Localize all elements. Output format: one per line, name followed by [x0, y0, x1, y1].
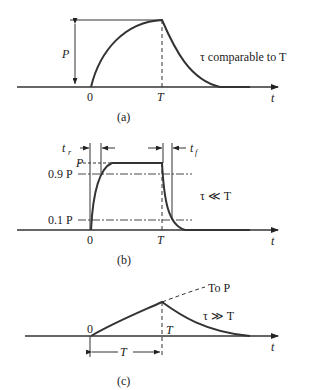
svg-text:(c): (c)	[117, 374, 130, 388]
svg-text:t: t	[190, 141, 194, 155]
svg-text:t: t	[271, 340, 275, 354]
svg-text:0.1 P: 0.1 P	[48, 213, 73, 227]
svg-text:T: T	[166, 323, 174, 337]
panel-a: P 0 T t τ comparable to T (a)	[17, 20, 287, 124]
svg-text:To P: To P	[208, 281, 230, 295]
svg-text:f: f	[195, 148, 199, 157]
svg-text:t: t	[62, 141, 66, 155]
svg-text:0: 0	[87, 233, 93, 247]
svg-text:T: T	[120, 345, 128, 359]
svg-text:P: P	[61, 47, 70, 61]
svg-text:P: P	[75, 156, 84, 170]
svg-text:T: T	[157, 233, 165, 247]
panel-b: t r t f P 0.9 P 0.1 P 0 T t τ ≪ T (b)	[17, 141, 278, 267]
svg-text:0.9 P: 0.9 P	[48, 167, 73, 181]
svg-text:t: t	[271, 234, 275, 248]
svg-text:τ ≪ T: τ ≪ T	[200, 189, 232, 203]
svg-text:τ comparable to T: τ comparable to T	[200, 50, 287, 64]
svg-text:τ ≫ T: τ ≫ T	[203, 309, 235, 323]
svg-text:r: r	[68, 148, 72, 157]
svg-text:(a): (a)	[117, 110, 130, 124]
svg-text:0: 0	[87, 322, 93, 336]
svg-text:0: 0	[87, 90, 93, 104]
pulse-response-figure: P 0 T t τ comparable to T (a) t r t f P …	[0, 0, 313, 390]
svg-text:(b): (b)	[117, 253, 131, 267]
svg-text:T: T	[157, 90, 165, 104]
panel-c: 0 T T t To P τ ≫ T (c)	[25, 281, 278, 388]
svg-text:t: t	[271, 91, 275, 105]
